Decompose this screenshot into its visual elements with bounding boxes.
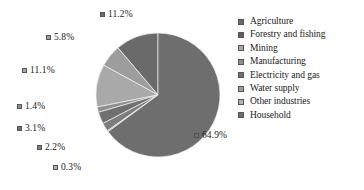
legend-item-agriculture[interactable]: Agriculture xyxy=(238,15,364,28)
pie-slice-value-label: 5.8% xyxy=(46,33,74,43)
pie-chart-figure: 11.2%5.8%11.1%1.4%3.1%2.2%0.3%64.9% Agri… xyxy=(0,0,364,190)
legend-swatch-icon xyxy=(238,45,244,51)
legend-item-forestry-and-fishing[interactable]: Forestry and fishing xyxy=(238,28,364,41)
legend-item-label: Forestry and fishing xyxy=(250,30,326,40)
legend-item-manufacturing[interactable]: Manufacturing xyxy=(238,55,364,68)
legend-item-electricity-and-gas[interactable]: Electricity and gas xyxy=(238,69,364,82)
legend-item-label: Manufacturing xyxy=(250,57,306,67)
pie-slice-value-label: 0.3% xyxy=(53,163,81,173)
chart-legend: AgricultureForestry and fishingMiningMan… xyxy=(238,15,364,122)
pie-slice-value-label: 3.1% xyxy=(17,124,45,134)
legend-item-household[interactable]: Household xyxy=(238,109,364,122)
pie-slice-value-label: 64.9% xyxy=(194,131,227,141)
legend-swatch-icon xyxy=(238,59,244,65)
legend-item-label: Agriculture xyxy=(250,17,293,27)
slice-percent-text: 3.1% xyxy=(25,124,45,134)
slice-marker-icon xyxy=(46,35,51,40)
legend-swatch-icon xyxy=(238,32,244,38)
legend-swatch-icon xyxy=(238,72,244,78)
slice-percent-text: 1.4% xyxy=(25,102,45,112)
pie-slice-value-label: 2.2% xyxy=(37,143,65,153)
legend-item-mining[interactable]: Mining xyxy=(238,42,364,55)
slice-percent-text: 0.3% xyxy=(61,163,81,173)
slice-marker-icon xyxy=(22,68,27,73)
slice-marker-icon xyxy=(37,145,42,150)
pie-slice-value-label: 11.2% xyxy=(100,10,133,20)
slice-marker-icon xyxy=(194,133,199,138)
slice-percent-text: 2.2% xyxy=(45,143,65,153)
legend-item-water-supply[interactable]: Water supply xyxy=(238,82,364,95)
legend-swatch-icon xyxy=(238,86,244,92)
slice-percent-text: 5.8% xyxy=(54,33,74,43)
legend-item-label: Mining xyxy=(250,44,278,54)
slice-marker-icon xyxy=(17,126,22,131)
slice-marker-icon xyxy=(53,165,58,170)
legend-swatch-icon xyxy=(238,99,244,105)
slice-percent-text: 11.1% xyxy=(30,66,55,76)
pie-slice-value-label: 1.4% xyxy=(17,102,45,112)
pie-svg xyxy=(0,0,225,190)
legend-swatch-icon xyxy=(238,19,244,25)
legend-item-label: Water supply xyxy=(250,84,300,94)
legend-item-label: Electricity and gas xyxy=(250,71,320,81)
legend-swatch-icon xyxy=(238,112,244,118)
legend-item-other-industries[interactable]: Other industries xyxy=(238,95,364,108)
pie-slice-value-label: 11.1% xyxy=(22,66,55,76)
pie-plot-area: 11.2%5.8%11.1%1.4%3.1%2.2%0.3%64.9% xyxy=(0,0,225,190)
legend-item-label: Other industries xyxy=(250,97,310,107)
slice-marker-icon xyxy=(17,104,22,109)
slice-percent-text: 11.2% xyxy=(108,10,133,20)
slice-marker-icon xyxy=(100,12,105,17)
slice-percent-text: 64.9% xyxy=(202,131,227,141)
legend-item-label: Household xyxy=(250,111,291,121)
